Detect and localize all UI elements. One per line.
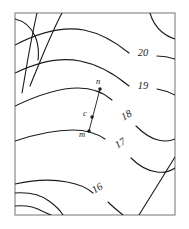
contour-plot-svg: n c m 20 19 18 17 16 bbox=[0, 0, 189, 229]
point-dot-c[interactable] bbox=[90, 115, 93, 118]
point-dot-m[interactable] bbox=[87, 129, 90, 132]
point-dot-n[interactable] bbox=[98, 87, 101, 90]
point-label-c: c bbox=[83, 108, 87, 118]
point-label-n: n bbox=[96, 76, 100, 86]
contour-label-20: 20 bbox=[138, 47, 149, 58]
contour-map-figure: n c m 20 19 18 17 16 bbox=[0, 0, 189, 229]
point-label-m: m bbox=[79, 129, 85, 139]
contour-label-19: 19 bbox=[138, 80, 149, 91]
